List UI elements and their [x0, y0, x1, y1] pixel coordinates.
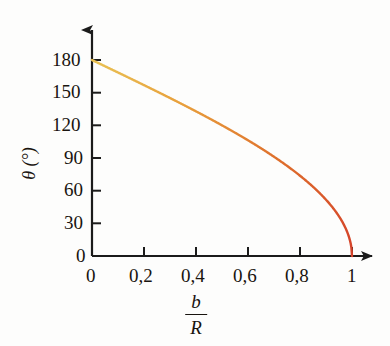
y-axis-title-text: θ (°) — [19, 147, 40, 180]
y-tick-label-30: 30 — [64, 213, 83, 232]
y-tick-label-60: 60 — [64, 180, 83, 199]
x-tick-label-0-4: 0,4 — [181, 266, 205, 285]
figure-container: 180 150 120 90 60 30 0 0 0,2 0,4 0,6 0,8… — [0, 0, 390, 346]
x-tick-label-1: 1 — [347, 266, 357, 285]
x-tick-label-0-8: 0,8 — [285, 266, 309, 285]
x-axis-ticks — [144, 247, 352, 256]
x-axis-title: b R — [185, 292, 207, 338]
x-tick-label-0-2: 0,2 — [129, 266, 153, 285]
y-tick-label-150: 150 — [52, 82, 81, 101]
x-tick-label-0-6: 0,6 — [233, 266, 257, 285]
y-tick-label-120: 120 — [52, 115, 81, 134]
fraction-bar-icon — [185, 314, 207, 316]
y-axis-ticks — [92, 60, 101, 223]
y-tick-label-0: 0 — [76, 246, 86, 265]
y-tick-label-90: 90 — [64, 148, 83, 167]
x-axis-title-denominator: R — [185, 317, 207, 338]
x-axis-title-numerator: b — [185, 292, 207, 313]
data-curve-theta — [92, 60, 352, 256]
y-axis-title: θ (°) — [14, 128, 44, 198]
x-tick-label-0: 0 — [86, 266, 96, 285]
y-tick-label-180: 180 — [52, 50, 81, 69]
